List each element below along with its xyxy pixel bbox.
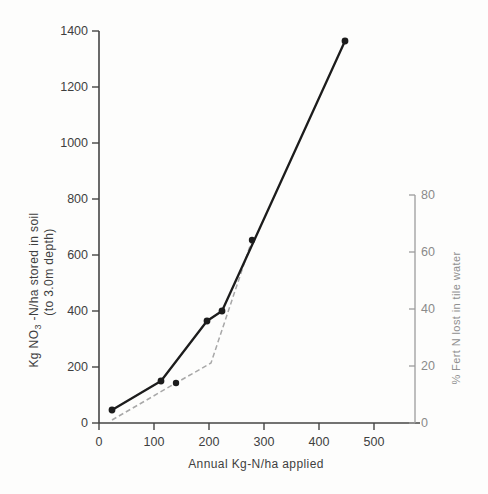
series-solid-line [112,41,345,410]
y-title-part-1: Kg NO [27,330,41,368]
data-point [219,308,226,315]
data-point [158,378,165,385]
y-right-tick-label-40: 40 [421,302,435,316]
x-tick-label-0: 0 [96,435,103,449]
x-tick-label-200: 200 [199,435,220,449]
y-tick-label-0: 0 [81,416,88,430]
x-axis-ticks [99,423,374,430]
x-tick-label-300: 300 [254,435,275,449]
data-point [173,380,179,386]
y-tick-label-800: 800 [67,192,88,206]
y-tick-label-1200: 1200 [60,80,88,94]
y-right-tick-label-0: 0 [421,416,428,430]
data-point [249,237,255,243]
y-axis-left-ticks [92,31,99,423]
data-point [342,38,349,45]
y-axis-left-title-main: Kg NO3 -N/ha stored in soil [27,212,43,367]
y-axis-left-title-sub: (to 3.0m depth) [42,228,56,315]
x-axis-title: Annual Kg-N/ha applied [188,457,324,471]
series-dashed-markers [173,237,255,386]
y-tick-label-1000: 1000 [60,136,88,150]
y-axis-right-title: % Fert N lost in tile water [450,251,462,384]
data-point [204,318,211,325]
y-tick-label-200: 200 [67,360,88,374]
x-tick-label-400: 400 [309,435,330,449]
y-right-tick-label-60: 60 [421,245,435,259]
y-right-tick-label-80: 80 [421,188,435,202]
y-title-part-2: -N/ha stored in soil [27,212,41,324]
data-point [109,407,116,414]
y-tick-label-400: 400 [67,304,88,318]
y-tick-label-600: 600 [67,248,88,262]
chart-svg: 1400 1200 1000 800 600 400 200 0 0 100 2… [0,0,488,494]
x-tick-label-500: 500 [364,435,385,449]
series-solid-markers [109,38,349,414]
y-axis-right-ticks [409,195,415,423]
series-dashed-line [112,240,252,420]
y-axis-left-title: Kg NO3 -N/ha stored in soil (to 3.0m dep… [27,212,56,367]
x-tick-label-100: 100 [144,435,165,449]
y-tick-label-1400: 1400 [60,24,88,38]
chart-figure: 1400 1200 1000 800 600 400 200 0 0 100 2… [0,0,488,494]
y-right-tick-label-20: 20 [421,359,435,373]
